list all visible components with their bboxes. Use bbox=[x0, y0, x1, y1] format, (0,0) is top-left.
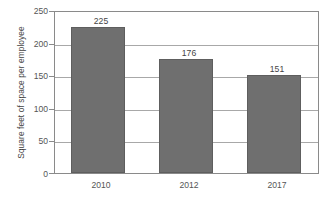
bar-2017 bbox=[247, 75, 301, 173]
x-tick-label-2017: 2017 bbox=[247, 180, 307, 190]
x-tick-label-2012: 2012 bbox=[159, 180, 219, 190]
y-tick-label-200: 200 bbox=[8, 39, 48, 49]
bar-2012 bbox=[159, 59, 213, 173]
bar-value-label-2010: 225 bbox=[71, 16, 131, 26]
bar-2010 bbox=[71, 27, 125, 173]
bar-value-label-2017: 151 bbox=[247, 64, 307, 74]
bar-chart-figure: Square feet of space per employee 250 20… bbox=[0, 0, 329, 202]
plot-area bbox=[54, 11, 319, 174]
y-tick-label-0: 0 bbox=[8, 169, 48, 179]
x-tick-label-2010: 2010 bbox=[71, 180, 131, 190]
y-tick-label-250: 250 bbox=[8, 6, 48, 16]
y-tick-label-100: 100 bbox=[8, 104, 48, 114]
y-tick-label-150: 150 bbox=[8, 71, 48, 81]
bar-value-label-2012: 176 bbox=[159, 48, 219, 58]
y-axis-title: Square feet of space per employee bbox=[14, 11, 28, 174]
y-tick-label-50: 50 bbox=[8, 136, 48, 146]
